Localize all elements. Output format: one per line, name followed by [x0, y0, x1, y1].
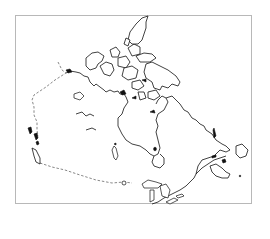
- arctic-island: [138, 92, 146, 100]
- nova-scotia: [210, 164, 230, 178]
- arctic-island: [124, 38, 130, 46]
- newfoundland: [236, 144, 248, 158]
- lake-ontario: [176, 194, 184, 198]
- labrador-coast: [166, 96, 230, 150]
- bc-coast-islands: [34, 133, 38, 140]
- arctic-dark-detail: [142, 79, 146, 82]
- us-border: [40, 163, 132, 183]
- great-slave-lake: [76, 112, 94, 116]
- alaska-border: [32, 62, 66, 136]
- athabasca-lake: [86, 128, 96, 130]
- southampton-island: [148, 90, 160, 100]
- arctic-island: [128, 44, 140, 56]
- arctic-island: [132, 80, 144, 90]
- ellesmere-island: [128, 16, 148, 44]
- hudson-bay-coast: [118, 96, 168, 156]
- anticosti-island: [212, 155, 216, 158]
- james-bay-coast: [152, 154, 164, 168]
- great-bear-lake: [74, 92, 84, 100]
- lake-superior: [142, 180, 162, 188]
- baffin-island: [144, 62, 180, 90]
- mainland-arctic-coast: [66, 71, 126, 97]
- arctic-island: [100, 62, 114, 76]
- haida-gwaii: [28, 127, 32, 134]
- sable-island: [239, 175, 241, 177]
- bc-coast-islands: [36, 141, 39, 145]
- arctic-island: [118, 56, 130, 68]
- cape-breton: [222, 159, 226, 163]
- arctic-island: [122, 66, 138, 80]
- lake-winnipeg-north: [114, 143, 116, 145]
- vancouver-island: [32, 148, 40, 164]
- lake-huron: [160, 184, 170, 198]
- lake-michigan: [150, 190, 154, 202]
- lake-of-the-woods: [122, 181, 126, 185]
- akimiski-island: [154, 147, 157, 151]
- arctic-island: [110, 47, 120, 57]
- lake-erie: [166, 198, 178, 204]
- lake-winnipeg: [112, 146, 118, 160]
- arctic-dark-detail: [150, 110, 155, 113]
- arctic-dark-detail: [132, 96, 136, 99]
- canada-map: [0, 0, 270, 239]
